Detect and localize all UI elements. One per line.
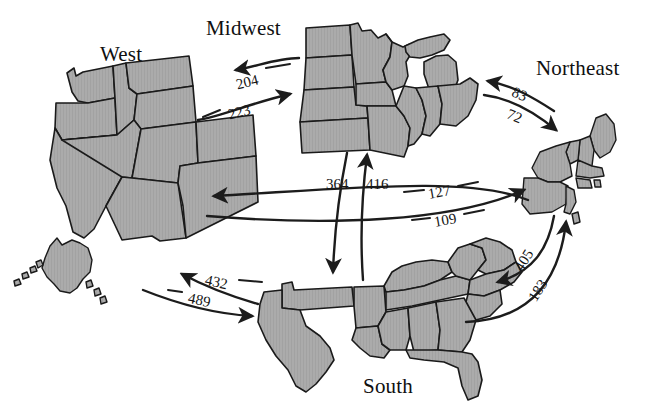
region-label-northeast: Northeast [536, 56, 619, 81]
region-shape-midwest [300, 23, 478, 157]
leader-tick-109b [464, 210, 484, 214]
flow-value-south-to-midwest: 416 [366, 176, 389, 193]
leader-tick-432 [239, 280, 262, 282]
region-shape-northeast [522, 114, 616, 224]
leader-tick-109 [412, 218, 430, 220]
leader-tick-204 [266, 64, 290, 68]
region-label-south: South [363, 374, 413, 399]
migration-flow-figure: West Midwest Northeast South 204 223 83 … [0, 0, 649, 408]
flow-arrow-south-to-midwest [362, 155, 367, 280]
leader-tick-127b [458, 182, 478, 186]
region-label-midwest: Midwest [206, 16, 281, 41]
flow-arrow-midwest-to-south [333, 153, 347, 272]
region-label-west: West [100, 42, 142, 67]
leader-tick-127 [404, 190, 424, 192]
region-shape-west [50, 56, 258, 241]
region-shape-alaska [14, 238, 107, 304]
flow-value-midwest-to-south: 364 [326, 176, 349, 193]
leader-tick-489 [168, 290, 182, 292]
